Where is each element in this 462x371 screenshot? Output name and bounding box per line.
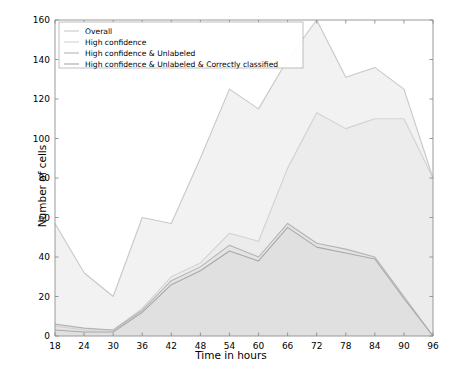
legend-label: High confidence xyxy=(85,38,147,47)
y-tick-label: 140 xyxy=(33,55,50,65)
y-tick-label: 20 xyxy=(39,292,51,302)
legend-label: Overall xyxy=(85,27,112,36)
chart-legend[interactable]: OverallHigh confidenceHigh confidence & … xyxy=(59,22,303,69)
x-axis-label: Time in hours xyxy=(0,349,462,361)
y-tick-label: 160 xyxy=(33,15,50,25)
plot-canvas: 1824303642485460667278849096 02040608010… xyxy=(0,0,462,371)
y-axis-label-wrapper: Number of cells xyxy=(8,0,28,371)
y-axis-label: Number of cells xyxy=(36,106,48,266)
legend-label: High confidence & Unlabeled xyxy=(85,49,196,58)
chart-figure: 1824303642485460667278849096 02040608010… xyxy=(0,0,462,371)
y-tick-label: 0 xyxy=(44,331,50,341)
y-tick-label: 120 xyxy=(33,94,50,104)
legend-label: High confidence & Unlabeled & Correctly … xyxy=(85,60,278,69)
